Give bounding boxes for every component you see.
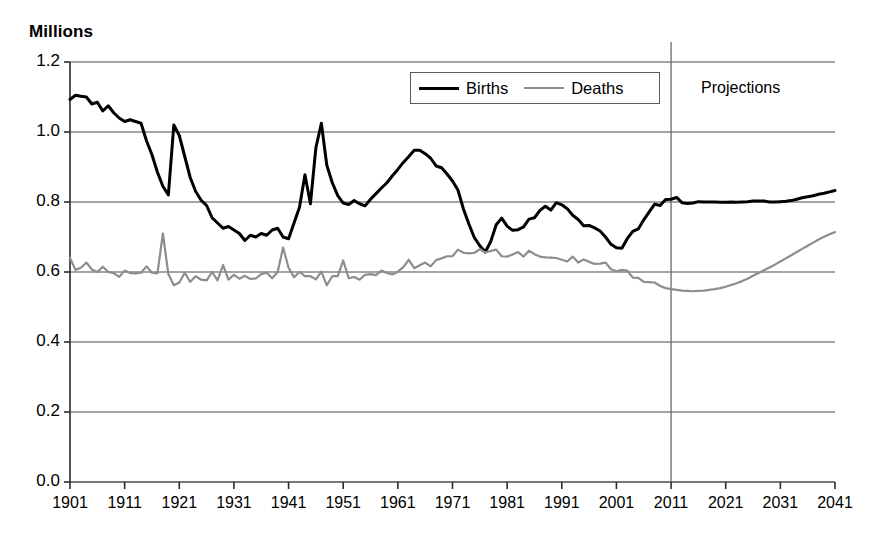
x-tick-label: 2011 [641,494,701,512]
series-line-deaths [70,232,835,291]
chart-legend: Births Deaths [410,72,660,104]
y-tick-label: 0.8 [12,191,60,211]
births-line-swatch-icon [419,87,459,90]
x-tick-label: 1971 [423,494,483,512]
x-tick-label: 2031 [750,494,810,512]
legend-entry-births: Births [411,79,516,98]
legend-entry-deaths: Deaths [516,79,631,98]
projections-annotation: Projections [701,79,780,97]
y-tick-label: 1.0 [12,121,60,141]
y-tick-label: 0.4 [12,331,60,351]
y-tick-label: 1.2 [12,51,60,71]
x-tick-label: 1941 [259,494,319,512]
y-tick-label: 0.2 [12,401,60,421]
x-tick-label: 1901 [40,494,100,512]
x-tick-label: 1981 [477,494,537,512]
x-tick-label: 2001 [586,494,646,512]
x-tick-label: 1911 [95,494,155,512]
y-tick-label: 0.6 [12,261,60,281]
series-line-births [70,95,835,252]
x-tick-label: 2021 [696,494,756,512]
x-tick-label: 1921 [149,494,209,512]
births-deaths-line-chart: Millions 1.21.00.80.60.40.20.0 190119111… [0,0,869,538]
x-tick-label: 1961 [368,494,428,512]
deaths-line-swatch-icon [524,87,564,89]
x-tick-label: 1951 [313,494,373,512]
y-tick-label: 0.0 [12,471,60,491]
y-axis-title: Millions [29,22,93,42]
x-tick-label: 1991 [532,494,592,512]
legend-label-births: Births [466,79,508,98]
x-tick-label: 1931 [204,494,264,512]
legend-label-deaths: Deaths [571,79,623,98]
x-tick-label: 2041 [805,494,865,512]
